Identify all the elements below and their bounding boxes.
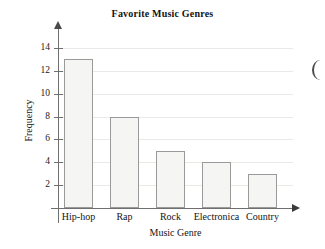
bar-hip-hop bbox=[64, 59, 93, 208]
y-axis-title: Frequency bbox=[23, 81, 34, 161]
y-tick-label: 14 bbox=[28, 43, 50, 53]
bar-electronica bbox=[202, 162, 231, 208]
bar-rap bbox=[110, 117, 139, 208]
scan-edge-artifact bbox=[312, 60, 321, 80]
bar-rock bbox=[156, 151, 185, 208]
x-axis-title: Music Genre bbox=[58, 227, 293, 238]
bar-chart-figure: Favorite Music Genres 2468101214 Hip-hop… bbox=[0, 0, 325, 249]
chart-title: Favorite Music Genres bbox=[0, 8, 325, 19]
bars-layer bbox=[58, 25, 298, 208]
y-tick-label: 12 bbox=[28, 66, 50, 76]
x-axis-line bbox=[51, 208, 294, 209]
x-tick-label-country: Country bbox=[223, 211, 303, 222]
bar-country bbox=[248, 174, 277, 208]
y-tick-label: 2 bbox=[28, 180, 50, 190]
